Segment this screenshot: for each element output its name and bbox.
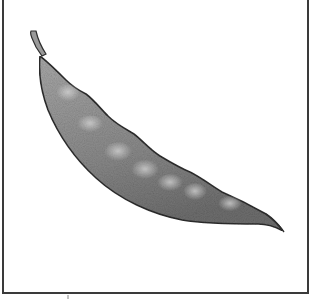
pea-pod-illustration [0, 0, 316, 307]
pod-body [39, 56, 283, 231]
stem [30, 31, 46, 56]
